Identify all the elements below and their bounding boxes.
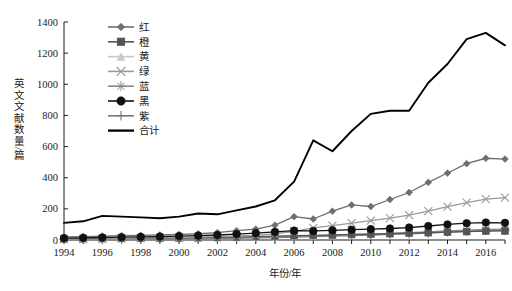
series-0 bbox=[61, 155, 509, 240]
legend-label: 黑 bbox=[139, 96, 149, 107]
legend-item-0[interactable]: 红 bbox=[108, 21, 150, 33]
series-7 bbox=[64, 33, 505, 223]
x-axis-title: 年份/年 bbox=[269, 267, 302, 279]
legend-item-5[interactable]: 黑 bbox=[108, 96, 149, 107]
data-point-marker bbox=[463, 228, 470, 235]
data-point-marker bbox=[290, 227, 298, 235]
y-axis-tick-label: 400 bbox=[42, 172, 58, 183]
data-point-marker bbox=[367, 203, 374, 210]
legend-label: 橙 bbox=[139, 36, 150, 48]
y-axis-tick-label: 1000 bbox=[37, 79, 58, 90]
data-point-marker bbox=[214, 231, 222, 239]
data-point-marker bbox=[463, 219, 471, 227]
data-point-marker bbox=[271, 228, 279, 236]
x-axis-tick-label: 2008 bbox=[322, 247, 343, 258]
data-point-marker bbox=[194, 232, 202, 240]
data-point-marker bbox=[463, 160, 470, 167]
x-axis-tick-label: 2016 bbox=[475, 247, 496, 258]
data-point-marker bbox=[233, 230, 241, 238]
legend-item-2[interactable]: 黄 bbox=[108, 50, 149, 62]
data-point-marker bbox=[117, 23, 125, 31]
data-point-marker bbox=[117, 97, 125, 105]
data-point-marker bbox=[387, 196, 394, 203]
x-axis-tick-label: 2004 bbox=[245, 247, 267, 258]
y-axis: 0200400600800100012001400 bbox=[37, 17, 68, 246]
data-point-marker bbox=[291, 213, 298, 220]
y-axis-tick-label: 200 bbox=[42, 203, 58, 214]
data-point-marker bbox=[175, 232, 183, 240]
data-point-marker bbox=[156, 233, 164, 241]
data-point-marker bbox=[116, 81, 126, 91]
data-point-marker bbox=[272, 222, 279, 229]
legend-label: 黄 bbox=[139, 50, 149, 62]
data-point-marker bbox=[425, 179, 432, 186]
series-line bbox=[64, 33, 505, 223]
x-axis-tick-label: 2000 bbox=[169, 247, 190, 258]
legend-item-1[interactable]: 橙 bbox=[108, 36, 150, 48]
chart-legend: 红橙黄绿蓝黑紫合计 bbox=[108, 21, 160, 137]
x-axis-tick-label: 2014 bbox=[437, 247, 459, 258]
data-point-marker bbox=[386, 225, 394, 233]
data-point-marker bbox=[444, 170, 451, 177]
data-point-marker bbox=[329, 208, 336, 215]
legend-label: 绿 bbox=[139, 65, 150, 77]
legend-item-7[interactable]: 合计 bbox=[108, 124, 160, 136]
x-axis-tick-label: 2012 bbox=[399, 247, 420, 258]
data-point-marker bbox=[367, 225, 375, 233]
series-4 bbox=[59, 225, 509, 244]
data-point-marker bbox=[406, 189, 413, 196]
data-point-marker bbox=[348, 202, 355, 209]
data-point-marker bbox=[252, 229, 260, 237]
data-point-marker bbox=[425, 222, 433, 230]
x-axis-tick-label: 1998 bbox=[130, 247, 151, 258]
data-point-marker bbox=[117, 38, 125, 46]
legend-item-4[interactable]: 蓝 bbox=[108, 81, 150, 92]
data-point-marker bbox=[116, 111, 126, 121]
data-point-marker bbox=[348, 226, 356, 234]
data-point-marker bbox=[309, 227, 317, 235]
legend-item-6[interactable]: 紫 bbox=[108, 111, 149, 122]
y-axis-tick-label: 1200 bbox=[37, 48, 58, 59]
data-point-marker bbox=[482, 155, 489, 162]
x-axis-tick-label: 1994 bbox=[54, 247, 76, 258]
x-axis-tick-label: 2002 bbox=[207, 247, 228, 258]
legend-item-3[interactable]: 绿 bbox=[108, 65, 150, 77]
y-axis-title: 英文文献数量/篇 bbox=[13, 77, 24, 162]
x-axis-tick-label: 2010 bbox=[360, 247, 381, 258]
legend-label: 合计 bbox=[139, 124, 160, 136]
legend-label: 蓝 bbox=[139, 81, 150, 92]
series-layer bbox=[59, 33, 509, 244]
data-point-marker bbox=[79, 234, 87, 242]
y-axis-tick-label: 600 bbox=[42, 141, 58, 152]
data-point-marker bbox=[502, 156, 509, 163]
legend-label: 红 bbox=[139, 21, 150, 33]
data-point-marker bbox=[329, 227, 337, 235]
data-point-marker bbox=[501, 219, 509, 227]
data-point-marker bbox=[425, 229, 432, 236]
data-point-marker bbox=[310, 216, 317, 223]
data-point-marker bbox=[118, 233, 126, 241]
data-point-marker bbox=[137, 233, 145, 241]
data-point-marker bbox=[60, 234, 68, 242]
data-point-marker bbox=[444, 229, 451, 236]
data-point-marker bbox=[99, 234, 107, 242]
y-axis-tick-label: 0 bbox=[53, 235, 58, 246]
y-axis-tick-label: 1400 bbox=[37, 17, 58, 28]
data-point-marker bbox=[405, 224, 413, 232]
x-axis-tick-label: 2006 bbox=[284, 247, 305, 258]
chart-canvas: 0200400600800100012001400 19941996199820… bbox=[0, 0, 512, 291]
data-point-marker bbox=[482, 228, 489, 235]
y-axis-tick-label: 800 bbox=[42, 110, 58, 121]
legend-label: 紫 bbox=[139, 111, 149, 122]
line-chart: 0200400600800100012001400 19941996199820… bbox=[0, 0, 512, 291]
data-point-marker bbox=[502, 228, 509, 235]
x-axis-tick-label: 1996 bbox=[92, 247, 113, 258]
data-point-marker bbox=[444, 221, 452, 229]
data-point-marker bbox=[482, 219, 490, 227]
